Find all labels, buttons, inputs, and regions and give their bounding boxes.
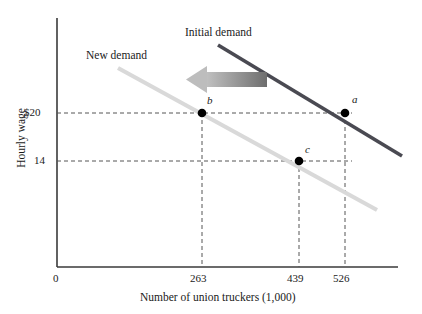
x-axis-title: Number of union truckers (1,000) — [140, 292, 296, 304]
point-label-c: c — [305, 144, 310, 155]
plot-area — [0, 0, 422, 314]
point-marker-c — [295, 157, 304, 166]
point-marker-a — [341, 109, 350, 118]
initial-demand-label: Initial demand — [185, 27, 252, 39]
point-label-a: a — [352, 94, 358, 105]
y-tick-label-20: $20 — [24, 107, 41, 118]
point-marker-b — [198, 109, 207, 118]
x-tick-label-263: 263 — [190, 273, 207, 284]
new-demand-label: New demand — [86, 50, 147, 62]
x-tick-label-526: 526 — [333, 273, 350, 284]
economics-demand-shift-figure: Hourly wage $20 14 263 439 526 0 Number … — [0, 0, 422, 314]
new-demand-curve — [118, 68, 377, 210]
x-tick-label-439: 439 — [287, 273, 304, 284]
y-tick-label-14: 14 — [34, 155, 45, 166]
origin-label: 0 — [53, 273, 59, 284]
point-label-b: b — [207, 95, 213, 106]
shift-arrow-icon — [186, 66, 267, 93]
